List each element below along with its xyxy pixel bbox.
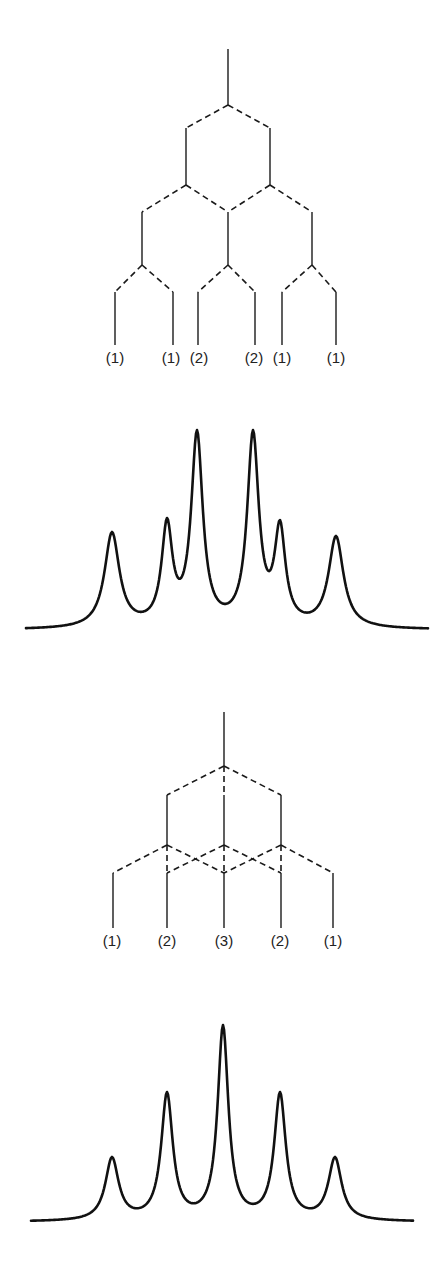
spectrum-2 xyxy=(31,1025,413,1221)
tree1-l3-branch xyxy=(142,265,173,292)
tree1-leaf-label: (2) xyxy=(245,349,263,366)
tree2-leaf-label: (1) xyxy=(324,932,342,949)
tree2-l1-branch-left xyxy=(167,766,224,795)
tree2-leaf-label: (3) xyxy=(215,932,233,949)
tree1-l2-branch xyxy=(142,185,186,212)
spectrum-2-trace xyxy=(31,1025,413,1221)
tree2-leaf-label: (2) xyxy=(158,932,176,949)
nmr-splitting-figure: (1) (1) (2) (2) (1) (1) (1) (2) ( xyxy=(0,0,442,1274)
tree2-l1-branch-right xyxy=(224,766,281,795)
spectrum-1 xyxy=(26,430,428,628)
tree2-leaf-label: (1) xyxy=(103,932,121,949)
tree1-l1-branch-right xyxy=(228,105,270,128)
splitting-tree-1: (1) (1) (2) (2) (1) (1) xyxy=(106,49,345,366)
tree1-l3-branch xyxy=(115,265,142,292)
tree1-leaf-label: (2) xyxy=(190,349,208,366)
tree1-l2-branch xyxy=(186,185,228,212)
tree1-l2-branch xyxy=(228,185,270,212)
splitting-tree-2: (1) (2) (3) (2) (1) xyxy=(103,712,342,949)
tree1-leaf-label: (1) xyxy=(162,349,180,366)
tree2-leaf-label: (2) xyxy=(271,932,289,949)
tree1-l2-branch xyxy=(270,185,312,212)
tree1-l1-branch-left xyxy=(186,105,228,128)
tree1-leaf-label: (1) xyxy=(273,349,291,366)
tree1-l3-branch xyxy=(228,265,255,292)
tree1-l3-branch xyxy=(198,265,228,292)
tree2-l2-branch xyxy=(113,845,167,873)
tree2-l2-branch xyxy=(281,845,333,873)
tree1-l3-branch xyxy=(312,265,336,292)
tree1-leaf-label: (1) xyxy=(327,349,345,366)
spectrum-1-trace xyxy=(26,430,428,628)
tree1-l3-branch xyxy=(282,265,312,292)
tree1-leaf-label: (1) xyxy=(106,349,124,366)
